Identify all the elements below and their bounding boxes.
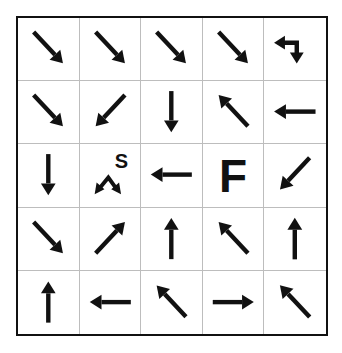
grid-cell[interactable]: [18, 18, 80, 81]
grid-cell[interactable]: [264, 208, 326, 271]
grid-cell[interactable]: [80, 208, 142, 271]
arrow-left-icon: [141, 144, 202, 206]
grid-cell[interactable]: [141, 144, 203, 207]
finish-label: F: [203, 149, 264, 203]
arrow-up-icon: [18, 271, 79, 334]
start-label: S: [115, 150, 128, 173]
grid-cell[interactable]: [18, 271, 80, 334]
grid-cell[interactable]: [264, 144, 326, 207]
grid-cell[interactable]: [203, 208, 265, 271]
arrow-left-icon: [80, 271, 141, 334]
grid-cell[interactable]: [264, 81, 326, 144]
grid-cell[interactable]: [141, 271, 203, 334]
arrow-down-left-icon: [264, 144, 326, 206]
grid-cell[interactable]: [203, 18, 265, 81]
grid-cell[interactable]: [264, 271, 326, 334]
grid-cell[interactable]: [80, 271, 142, 334]
arrow-down-left-and-down-right-icon: [80, 144, 141, 206]
arrow-left-then-down-icon: [264, 18, 326, 80]
arrow-up-right-icon: [80, 208, 141, 270]
grid-cell[interactable]: [141, 208, 203, 271]
arrow-down-icon: [141, 81, 202, 143]
arrow-up-icon: [141, 208, 202, 270]
grid-cell[interactable]: [203, 81, 265, 144]
puzzle-board: SF: [16, 16, 328, 336]
grid-cell[interactable]: [18, 144, 80, 207]
arrow-down-right-icon: [18, 81, 79, 143]
grid-cell[interactable]: [80, 18, 142, 81]
arrow-up-left-icon: [264, 271, 326, 334]
arrow-up-left-icon: [203, 81, 264, 143]
grid-cell[interactable]: [141, 18, 203, 81]
grid-cell[interactable]: [141, 81, 203, 144]
arrow-down-right-icon: [141, 18, 202, 80]
arrow-up-icon: [264, 208, 326, 270]
arrow-left-icon: [264, 81, 326, 143]
arrow-down-right-icon: [203, 18, 264, 80]
grid-cell[interactable]: S: [80, 144, 142, 207]
arrow-down-right-icon: [18, 208, 79, 270]
arrow-down-right-icon: [18, 18, 79, 80]
arrow-up-left-icon: [141, 271, 202, 334]
arrow-up-left-icon: [203, 208, 264, 270]
grid-cell[interactable]: F: [203, 144, 265, 207]
grid-cell[interactable]: [203, 271, 265, 334]
grid-cell[interactable]: [80, 81, 142, 144]
grid-cell[interactable]: [18, 208, 80, 271]
arrow-down-icon: [18, 144, 79, 206]
arrow-right-icon: [203, 271, 264, 334]
arrow-down-right-icon: [80, 18, 141, 80]
grid-cell[interactable]: [18, 81, 80, 144]
grid-cell[interactable]: [264, 18, 326, 81]
arrow-down-left-icon: [80, 81, 141, 143]
